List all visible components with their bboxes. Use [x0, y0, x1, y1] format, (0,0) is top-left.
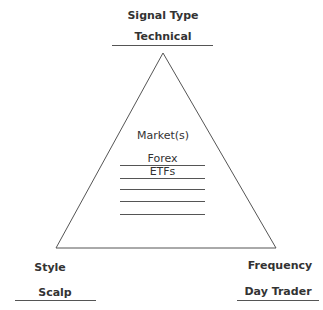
- style-value: Scalp: [15, 286, 95, 299]
- market-line: [120, 178, 205, 179]
- market-line: [120, 189, 205, 190]
- market-line: [120, 201, 205, 202]
- style-underline: [15, 300, 96, 301]
- style-heading: Style: [20, 261, 80, 274]
- signal-type-heading: Signal Type: [113, 9, 213, 22]
- markets-heading: Market(s): [113, 129, 213, 142]
- signal-type-value: Technical: [113, 30, 213, 43]
- frequency-underline: [237, 300, 319, 301]
- market-line: [120, 214, 205, 215]
- market-item: Forex: [120, 152, 205, 165]
- frequency-heading: Frequency: [240, 259, 320, 272]
- signal-type-underline: [112, 45, 213, 46]
- frequency-value: Day Trader: [237, 285, 319, 298]
- market-item: ETFs: [120, 165, 205, 178]
